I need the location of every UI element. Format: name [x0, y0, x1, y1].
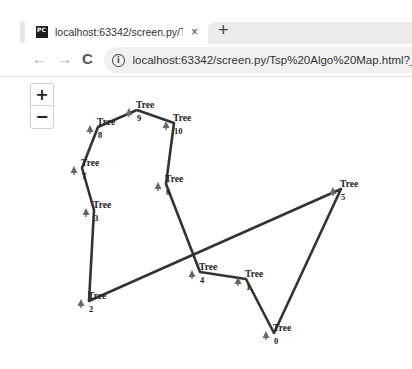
tree-marker-7[interactable]: Tree7	[71, 158, 100, 181]
zoom-control: + −	[30, 83, 54, 129]
node-index: 6	[166, 187, 170, 197]
tree-icon	[83, 208, 90, 215]
node-index: 2	[89, 304, 93, 314]
tsp-route-map: Tree0Tree1Tree2Tree3Tree4Tree5Tree6Tree7…	[0, 0, 412, 369]
tree-marker-10[interactable]: Tree10	[163, 113, 192, 136]
marker-label: Tree	[88, 291, 106, 301]
node-index: 9	[137, 113, 141, 123]
tree-marker-3[interactable]: Tree3	[83, 200, 112, 223]
tree-marker-1[interactable]: Tree1	[235, 269, 264, 292]
marker-label: Tree	[165, 174, 183, 184]
zoom-in-button[interactable]: +	[31, 84, 53, 106]
tree-marker-6[interactable]: Tree6	[155, 174, 184, 197]
node-index: 0	[274, 336, 278, 346]
marker-label: Tree	[340, 179, 358, 189]
tree-marker-0[interactable]: Tree0	[263, 323, 292, 346]
marker-label: Tree	[245, 269, 263, 279]
marker-label: Tree	[97, 117, 115, 127]
tree-marker-2[interactable]: Tree2	[78, 291, 107, 314]
tree-icon	[155, 182, 162, 189]
marker-label: Tree	[93, 200, 111, 210]
route-path	[82, 110, 341, 333]
tree-marker-8[interactable]: Tree8	[87, 117, 116, 140]
zoom-out-button[interactable]: −	[31, 106, 53, 127]
node-index: 10	[174, 126, 183, 136]
marker-label: Tree	[199, 262, 217, 272]
tree-icon	[87, 125, 94, 132]
tree-marker-5[interactable]: Tree5	[330, 179, 359, 202]
marker-label: Tree	[273, 323, 291, 333]
tree-icon	[263, 331, 270, 338]
marker-label: Tree	[81, 158, 99, 168]
marker-label: Tree	[173, 113, 191, 123]
tree-icon	[78, 299, 85, 306]
tree-icon	[189, 270, 196, 277]
node-index: 4	[200, 275, 205, 285]
node-index: 5	[341, 192, 345, 202]
marker-label: Tree	[136, 100, 154, 110]
node-index: 8	[98, 130, 102, 140]
tree-markers: Tree0Tree1Tree2Tree3Tree4Tree5Tree6Tree7…	[71, 100, 359, 346]
tree-icon	[71, 166, 78, 173]
node-index: 1	[246, 282, 250, 292]
node-index: 3	[94, 213, 98, 223]
